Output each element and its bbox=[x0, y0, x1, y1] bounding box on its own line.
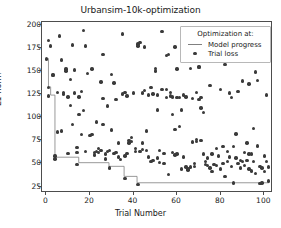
data-point bbox=[75, 163, 78, 166]
data-point bbox=[252, 127, 255, 130]
data-point bbox=[173, 128, 176, 131]
data-point bbox=[189, 165, 192, 168]
x-tick-label: 100 bbox=[256, 196, 270, 205]
data-point bbox=[162, 162, 165, 165]
legend-item-trial-loss: Trial loss bbox=[185, 49, 266, 58]
data-point bbox=[154, 67, 157, 70]
data-point bbox=[223, 63, 226, 66]
data-point bbox=[104, 157, 107, 160]
data-point bbox=[184, 95, 187, 98]
data-point bbox=[182, 155, 185, 158]
data-point bbox=[125, 94, 128, 97]
y-tick-label: 175 bbox=[11, 42, 41, 51]
data-point bbox=[130, 140, 133, 143]
y-tick-label: 50 bbox=[11, 158, 41, 167]
data-point bbox=[93, 153, 96, 156]
data-point bbox=[245, 141, 248, 144]
data-point bbox=[101, 123, 104, 126]
data-point bbox=[178, 125, 181, 128]
data-point bbox=[267, 179, 270, 182]
chart-legend: Optimization at: Model progress Trial lo… bbox=[180, 26, 271, 63]
data-point bbox=[149, 86, 152, 89]
line-swatch-icon bbox=[185, 44, 205, 45]
data-point bbox=[108, 166, 111, 169]
data-point bbox=[223, 175, 226, 178]
data-point bbox=[151, 92, 154, 95]
data-point bbox=[77, 113, 80, 116]
figure-canvas: Urbansim-10k-optimization L1-norm Trial … bbox=[0, 0, 281, 228]
data-point bbox=[99, 149, 102, 152]
data-point bbox=[112, 81, 115, 84]
x-axis-ticks: 020406080100 bbox=[41, 192, 272, 208]
y-tick-label: 125 bbox=[11, 89, 41, 98]
legend-title: Optimization at: bbox=[185, 30, 266, 38]
data-point bbox=[132, 91, 135, 94]
data-point bbox=[189, 67, 192, 70]
x-tick-label: 40 bbox=[128, 196, 138, 205]
data-point bbox=[82, 29, 85, 32]
data-point bbox=[162, 152, 165, 155]
x-tick-mark bbox=[89, 192, 90, 195]
data-point bbox=[239, 166, 242, 169]
data-point bbox=[217, 154, 220, 157]
data-point bbox=[45, 57, 48, 60]
data-point bbox=[66, 152, 69, 155]
dot-swatch-icon bbox=[185, 52, 205, 55]
y-tick-label: 75 bbox=[11, 135, 41, 144]
data-point bbox=[156, 108, 159, 111]
legend-label: Trial loss bbox=[208, 50, 238, 58]
data-point bbox=[241, 79, 244, 82]
data-point bbox=[121, 32, 124, 35]
data-point bbox=[180, 108, 183, 111]
x-tick-mark bbox=[45, 192, 46, 195]
data-point bbox=[101, 53, 104, 56]
data-point bbox=[226, 150, 229, 153]
data-point bbox=[136, 183, 139, 186]
data-point bbox=[58, 34, 61, 37]
x-tick-mark bbox=[133, 192, 134, 195]
x-tick-mark bbox=[176, 192, 177, 195]
data-point bbox=[99, 80, 102, 83]
data-point bbox=[160, 88, 163, 91]
data-point bbox=[228, 155, 231, 158]
data-point bbox=[245, 159, 248, 162]
legend-item-model-progress: Model progress bbox=[185, 40, 266, 49]
data-point bbox=[47, 94, 50, 97]
data-point bbox=[234, 156, 237, 159]
y-axis-ticks: 255075100125150175200 bbox=[5, 21, 41, 192]
data-point bbox=[56, 91, 59, 94]
data-point bbox=[180, 167, 183, 170]
data-point bbox=[199, 106, 202, 109]
data-point bbox=[51, 73, 54, 76]
data-point bbox=[263, 154, 266, 157]
x-tick-label: 80 bbox=[215, 196, 225, 205]
data-point bbox=[80, 90, 83, 93]
data-point bbox=[250, 169, 253, 172]
y-tick-label: 25 bbox=[11, 181, 41, 190]
data-point bbox=[53, 157, 56, 160]
data-point bbox=[75, 151, 78, 154]
y-tick-label: 200 bbox=[11, 19, 41, 28]
y-tick-label: 100 bbox=[11, 112, 41, 121]
x-axis-label: Trial Number bbox=[0, 209, 281, 218]
data-point bbox=[56, 130, 59, 133]
data-point bbox=[260, 181, 263, 184]
data-point bbox=[228, 91, 231, 94]
data-point bbox=[141, 91, 144, 94]
x-tick-mark bbox=[263, 192, 264, 195]
data-point bbox=[60, 129, 63, 132]
data-point bbox=[77, 95, 80, 98]
data-point bbox=[69, 78, 72, 81]
data-point bbox=[123, 177, 126, 180]
data-point bbox=[175, 67, 178, 70]
data-point bbox=[141, 141, 144, 144]
x-tick-label: 0 bbox=[43, 196, 48, 205]
legend-label: Model progress bbox=[208, 41, 261, 49]
data-point bbox=[145, 129, 148, 132]
data-point bbox=[125, 152, 128, 155]
data-point bbox=[199, 139, 202, 142]
data-point bbox=[90, 67, 93, 70]
data-point bbox=[60, 58, 63, 61]
data-point bbox=[202, 152, 205, 155]
data-point bbox=[156, 156, 159, 159]
